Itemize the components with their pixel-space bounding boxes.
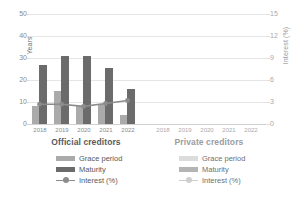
right-tickmark-0 [266, 124, 270, 125]
xtick-private-2022: 2022 [238, 127, 264, 134]
right-tickmark-3 [266, 102, 270, 103]
maturity-swatch-icon [56, 167, 75, 172]
legend-label-grace-official: Grace period [79, 154, 122, 163]
right-tickmark-12 [266, 36, 270, 37]
interest-line-marker-icon [179, 177, 198, 184]
legend-item-grace-official[interactable]: Grace period [56, 152, 122, 163]
right-ytick-9: 9 [270, 54, 288, 62]
right-axis-title: Interest (%) [282, 16, 289, 76]
panel-title-private: Private creditors [144, 137, 274, 147]
maturity-swatch-icon [179, 167, 198, 172]
legend-label-grace-private: Grace period [202, 154, 245, 163]
chart-figure: Years Interest (%) 50 40 30 20 10 0 15 1… [0, 0, 295, 199]
legend-label-interest-official: Interest (%) [79, 176, 118, 185]
left-tickmark-0 [25, 124, 29, 125]
legend-item-maturity-official[interactable]: Maturity [56, 163, 122, 174]
legend-label-interest-private: Interest (%) [202, 176, 241, 185]
legend-official: Grace period Maturity Interest (%) [56, 152, 122, 185]
panel-title-official: Official creditors [21, 137, 151, 147]
right-tickmark-9 [266, 58, 270, 59]
grace-period-swatch-icon [179, 156, 198, 161]
right-tickmark-6 [266, 80, 270, 81]
legend-item-interest-official[interactable]: Interest (%) [56, 174, 122, 185]
legend-label-maturity-private: Maturity [202, 165, 229, 174]
grace-period-swatch-icon [56, 156, 75, 161]
legend-item-grace-private[interactable]: Grace period [179, 152, 245, 163]
right-tickmark-15 [266, 14, 270, 15]
xtick-official-2022: 2022 [115, 127, 141, 134]
right-ytick-6: 6 [270, 76, 288, 84]
legend-item-interest-private[interactable]: Interest (%) [179, 174, 245, 185]
plot-area-private [152, 14, 266, 124]
legend-label-maturity-official: Maturity [79, 165, 106, 174]
interest-line-marker-icon [56, 177, 75, 184]
right-ytick-12: 12 [270, 32, 288, 40]
right-ytick-15: 15 [270, 10, 288, 18]
gridline-0 [29, 124, 266, 125]
right-ytick-3: 3 [270, 98, 288, 106]
legend-private: Grace period Maturity Interest (%) [179, 152, 245, 185]
plot-area-official [29, 14, 143, 124]
legend-item-maturity-private[interactable]: Maturity [179, 163, 245, 174]
interest-line-official [29, 14, 143, 124]
right-ytick-0: 0 [270, 120, 288, 128]
